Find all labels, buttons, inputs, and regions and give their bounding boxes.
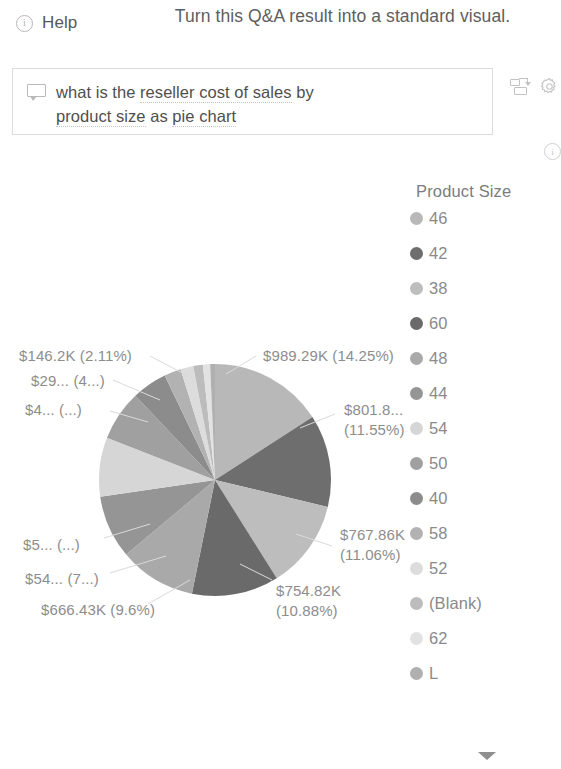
- pie-chart: $989.29K (14.25%)$801.8...(11.55%)$767.8…: [0, 160, 410, 740]
- legend-item-label: 60: [429, 314, 448, 333]
- legend-item-label: 62: [429, 629, 448, 648]
- legend-swatch-icon: [410, 387, 423, 400]
- legend-swatch-icon: [410, 317, 423, 330]
- pie-data-label-48: $666.43K (9.6%): [41, 600, 155, 620]
- pie-data-label-line: (11.55%): [344, 420, 405, 440]
- qna-visual-page: i Help Turn this Q&A result into a stand…: [0, 0, 561, 769]
- qna-q-term-category: product size: [56, 107, 146, 127]
- pie-data-label-line: $146.2K (2.11%): [19, 346, 132, 366]
- legend-item-label: (Blank): [429, 594, 482, 613]
- legend-swatch-icon: [410, 212, 423, 225]
- legend-item-label: 48: [429, 349, 448, 368]
- legend-swatch-icon: [410, 422, 423, 435]
- legend-item-label: 54: [429, 419, 448, 438]
- legend-item-50[interactable]: 50: [410, 446, 560, 481]
- legend-item-42[interactable]: 42: [410, 236, 560, 271]
- legend-item-label: 52: [429, 559, 448, 578]
- legend-item-62[interactable]: 62: [410, 621, 560, 656]
- legend-item-label: 42: [429, 244, 448, 263]
- legend-item-40[interactable]: 40: [410, 481, 560, 516]
- convert-to-visual-icon[interactable]: [510, 78, 529, 96]
- legend-item-l[interactable]: L: [410, 656, 560, 691]
- gear-icon[interactable]: [540, 77, 559, 96]
- legend-item-label: L: [429, 664, 438, 683]
- qna-q-seg2: by: [292, 83, 314, 101]
- pie-data-label-line: (11.06%): [340, 545, 405, 565]
- qna-q-seg3: as: [146, 107, 173, 125]
- pie-data-label-40: $29... (4...): [31, 371, 105, 391]
- legend-item-label: 46: [429, 209, 448, 228]
- pie-data-label-line: $666.43K (9.6%): [41, 600, 155, 620]
- legend-swatch-icon: [410, 282, 423, 295]
- pie-data-label-line: (10.88%): [276, 601, 341, 621]
- legend-item-label: 38: [429, 279, 448, 298]
- legend-item-46[interactable]: 46: [410, 201, 560, 236]
- qna-input-inner: what is the reseller cost of sales by pr…: [27, 80, 484, 128]
- info-circle-icon: i: [16, 15, 33, 32]
- pie-data-label-54: $5... (...): [23, 535, 80, 555]
- pie-data-label-line: $29... (4...): [31, 371, 105, 391]
- pie-data-label-line: $4... (...): [25, 400, 82, 420]
- legend-item-38[interactable]: 38: [410, 271, 560, 306]
- qna-q-term-measure: reseller cost of sales: [140, 83, 292, 103]
- pie-data-label-line: $54... (7...): [25, 569, 99, 589]
- help-button[interactable]: i Help: [16, 13, 77, 33]
- qna-input-box[interactable]: what is the reseller cost of sales by pr…: [12, 68, 493, 135]
- pie-data-label-line: $5... (...): [23, 535, 80, 555]
- legend-item-blank[interactable]: (Blank): [410, 586, 560, 621]
- pie-data-label-line: $989.29K (14.25%): [263, 346, 394, 366]
- legend-swatch-icon: [410, 457, 423, 470]
- speech-bubble-icon: [27, 84, 47, 100]
- info-circle-icon-secondary[interactable]: i: [544, 143, 561, 160]
- qna-q-term-visual: pie chart: [172, 107, 236, 127]
- legend-swatch-icon: [410, 632, 423, 645]
- legend-title: Product Size: [416, 182, 560, 201]
- pie-data-label-line: $754.82K: [276, 581, 341, 601]
- legend-item-label: 44: [429, 384, 448, 403]
- pie-data-label-38: $767.86K(11.06%): [340, 525, 405, 565]
- legend-item-60[interactable]: 60: [410, 306, 560, 341]
- pie-chart-svg[interactable]: [0, 160, 410, 740]
- legend-swatch-icon: [410, 562, 423, 575]
- legend-swatch-icon: [410, 667, 423, 680]
- pie-data-label-42: $801.8...(11.55%): [344, 400, 405, 440]
- qna-q-seg1: what is the: [56, 83, 140, 101]
- legend-swatch-icon: [410, 247, 423, 260]
- legend-swatch-icon: [410, 352, 423, 365]
- legend-item-label: 50: [429, 454, 448, 473]
- legend-item-48[interactable]: 48: [410, 341, 560, 376]
- chevron-down-icon[interactable]: [478, 752, 496, 760]
- legend-item-label: 40: [429, 489, 448, 508]
- pie-data-label-60: $754.82K(10.88%): [276, 581, 341, 621]
- legend-item-58[interactable]: 58: [410, 516, 560, 551]
- legend-swatch-icon: [410, 597, 423, 610]
- legend-item-54[interactable]: 54: [410, 411, 560, 446]
- pie-data-label-50: $4... (...): [25, 400, 82, 420]
- legend-item-52[interactable]: 52: [410, 551, 560, 586]
- pie-data-label-44: $54... (7...): [25, 569, 99, 589]
- pie-data-label-46: $989.29K (14.25%): [263, 346, 394, 366]
- legend-swatch-icon: [410, 492, 423, 505]
- legend: Product Size 4642386048445450405852(Blan…: [410, 182, 560, 691]
- page-title: Turn this Q&A result into a standard vis…: [140, 6, 545, 27]
- help-label: Help: [42, 13, 77, 33]
- legend-item-44[interactable]: 44: [410, 376, 560, 411]
- pie-data-label-58: $146.2K (2.11%): [19, 346, 132, 366]
- legend-swatch-icon: [410, 527, 423, 540]
- legend-item-label: 58: [429, 524, 448, 543]
- pie-data-label-line: $767.86K: [340, 525, 405, 545]
- pie-data-label-line: $801.8...: [344, 400, 405, 420]
- qna-query-text[interactable]: what is the reseller cost of sales by pr…: [56, 80, 314, 128]
